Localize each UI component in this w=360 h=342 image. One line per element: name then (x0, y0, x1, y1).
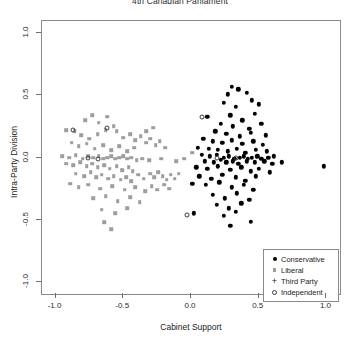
data-point (105, 156, 109, 160)
data-point (92, 197, 96, 201)
data-point (124, 176, 128, 180)
data-point (229, 85, 233, 89)
data-point (143, 189, 147, 193)
data-point (240, 118, 244, 122)
data-point (216, 148, 220, 152)
data-point (74, 172, 78, 176)
data-point (105, 125, 110, 130)
data-point (117, 145, 121, 149)
data-point (235, 191, 239, 195)
data-point (101, 157, 105, 161)
data-point (236, 87, 240, 91)
data-point (233, 175, 237, 179)
data-point (192, 211, 196, 215)
data-point (153, 176, 157, 180)
data-point (242, 183, 246, 187)
data-point (280, 160, 284, 164)
data-point (228, 168, 232, 172)
data-point (109, 228, 113, 232)
data-point (190, 181, 194, 185)
data-point (259, 122, 263, 126)
data-point (261, 143, 265, 147)
data-point (271, 154, 275, 158)
data-point (119, 178, 123, 182)
data-point (126, 207, 130, 211)
data-point (104, 194, 108, 198)
independent-marker-icon (269, 290, 280, 295)
data-point (69, 182, 73, 186)
y-axis-tick (36, 157, 41, 158)
data-point (145, 141, 149, 145)
y-axis-tick (36, 32, 41, 33)
legend-label: Conservative (281, 255, 325, 264)
data-point (228, 113, 232, 117)
data-point (88, 137, 92, 141)
data-point (77, 145, 81, 149)
data-point (105, 115, 109, 119)
data-point (233, 210, 237, 214)
y-axis-tick-label: -0.5 (21, 208, 30, 230)
data-point (115, 164, 119, 168)
data-point (78, 161, 82, 165)
x-axis-tick-label: 1.0 (320, 301, 331, 310)
data-point (244, 91, 248, 95)
data-point (173, 177, 177, 181)
data-point (90, 162, 94, 166)
data-point (191, 151, 195, 155)
data-point (227, 154, 231, 158)
data-point (111, 184, 115, 188)
data-point (145, 130, 149, 134)
data-point (165, 178, 169, 182)
data-point (159, 157, 163, 161)
legend-item-independent: Independent (269, 287, 334, 297)
data-point (98, 187, 102, 191)
data-point (109, 154, 113, 158)
data-point (231, 124, 235, 128)
data-point (108, 167, 112, 171)
data-point (132, 146, 136, 150)
y-axis-tick-label: -1.0 (21, 270, 30, 292)
data-point (112, 125, 116, 129)
data-point (169, 173, 173, 177)
data-point (250, 98, 254, 102)
data-point (96, 132, 100, 136)
data-point (267, 170, 271, 174)
data-point (229, 185, 233, 189)
data-point (177, 172, 181, 176)
data-point (163, 146, 167, 150)
data-point (214, 155, 219, 160)
data-point (140, 157, 144, 161)
x-axis-tick-label: 0.5 (252, 301, 263, 310)
data-point (257, 166, 261, 170)
data-point (126, 149, 130, 153)
plus-marker-icon: + (269, 277, 280, 286)
data-point (117, 156, 121, 160)
data-point (157, 171, 161, 175)
data-point (109, 148, 113, 152)
data-point (251, 139, 255, 143)
data-point (233, 104, 237, 108)
data-point (155, 188, 159, 192)
data-point (77, 185, 81, 189)
data-point (123, 188, 127, 192)
data-point (239, 201, 243, 205)
data-point (224, 132, 228, 136)
data-point (219, 158, 223, 162)
data-point (247, 197, 251, 201)
data-point (168, 187, 172, 191)
data-point (142, 177, 146, 181)
y-axis-tick (36, 94, 41, 95)
data-point (225, 149, 229, 153)
data-point (200, 153, 204, 157)
data-point (79, 133, 83, 137)
legend-item-liberal: Liberal (269, 265, 334, 275)
data-point (100, 173, 104, 177)
data-point (135, 158, 139, 162)
x-axis-tick (55, 293, 56, 298)
data-point (209, 176, 213, 180)
data-point (228, 224, 232, 228)
x-axis-tick (325, 293, 326, 298)
y-axis-tick-label: 0.0 (21, 146, 30, 168)
data-point (94, 176, 98, 180)
data-point (139, 135, 143, 139)
